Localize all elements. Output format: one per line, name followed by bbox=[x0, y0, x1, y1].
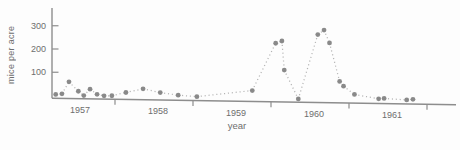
data-point bbox=[382, 96, 387, 101]
data-point bbox=[273, 41, 278, 46]
data-point bbox=[296, 97, 301, 102]
data-point bbox=[352, 92, 357, 97]
connector-segment bbox=[330, 43, 340, 82]
x-tick-label: 1959 bbox=[226, 108, 246, 118]
connector-segment bbox=[126, 89, 143, 93]
data-point bbox=[376, 96, 381, 101]
data-point bbox=[124, 90, 129, 95]
x-axis-line bbox=[52, 98, 456, 104]
data-point bbox=[337, 79, 342, 84]
connector-segment bbox=[252, 43, 275, 90]
data-point bbox=[315, 32, 320, 37]
connector-segment bbox=[284, 70, 298, 99]
data-point bbox=[141, 86, 146, 91]
data-point bbox=[158, 90, 163, 95]
x-tick-label: 1960 bbox=[304, 109, 324, 119]
data-point bbox=[327, 41, 332, 46]
data-point bbox=[60, 91, 65, 96]
connector-segment bbox=[384, 98, 407, 100]
data-point bbox=[322, 28, 327, 33]
y-tick-label: 100 bbox=[31, 67, 46, 77]
data-point bbox=[341, 84, 346, 89]
data-point bbox=[250, 88, 255, 93]
x-tick-label: 1957 bbox=[70, 105, 90, 115]
x-axis-title: year bbox=[216, 120, 258, 131]
connector-segment bbox=[160, 93, 178, 96]
data-point bbox=[404, 98, 409, 103]
data-point bbox=[102, 93, 107, 98]
data-point bbox=[411, 97, 416, 102]
connector-segment bbox=[143, 89, 160, 93]
y-tick-label: 300 bbox=[31, 21, 46, 31]
connector-segment bbox=[354, 94, 378, 98]
data-point bbox=[67, 79, 72, 84]
x-tick-label: 1961 bbox=[382, 110, 402, 120]
y-axis-title: mice per acre bbox=[5, 20, 17, 90]
data-point bbox=[109, 93, 114, 98]
connector-segment bbox=[282, 41, 284, 70]
x-tick-label: 1958 bbox=[148, 106, 168, 116]
connector-segment bbox=[178, 95, 197, 96]
y-tick-label: 200 bbox=[31, 44, 46, 54]
connector-segment bbox=[197, 91, 252, 97]
connector-segment bbox=[298, 35, 318, 99]
data-point bbox=[280, 39, 285, 44]
chart-container: 10020030019571958195919601961 mice per a… bbox=[0, 0, 460, 150]
data-point bbox=[81, 93, 86, 98]
data-point bbox=[95, 92, 100, 97]
data-point bbox=[53, 92, 58, 97]
data-point bbox=[176, 93, 181, 98]
data-point bbox=[195, 94, 200, 99]
data-point bbox=[76, 89, 81, 94]
data-point bbox=[88, 87, 93, 92]
data-point bbox=[282, 68, 287, 73]
